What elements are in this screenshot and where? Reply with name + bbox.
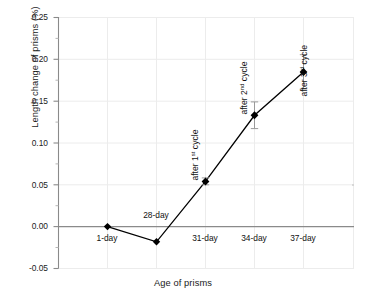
- annotation-2-suffix: cycle: [239, 62, 249, 84]
- annotation-1-prefix: after 1: [190, 156, 200, 180]
- annotation-2-prefix: after 2: [239, 90, 249, 114]
- y-tick-label-6: -0.05: [14, 264, 48, 272]
- y-axis-major-ticks: [54, 18, 59, 269]
- y-tick-label-4: 0.05: [14, 181, 48, 189]
- chart-canvas: [0, 0, 369, 300]
- x-tick-label-37-day: 37-day: [275, 234, 331, 242]
- annotation-2-sup: nd: [239, 84, 245, 91]
- x-tick-label-34-day: 34-day: [226, 234, 282, 242]
- annotation-after-3rd-cycle: after 3rd cycle: [300, 45, 309, 97]
- x-tick-label-28-day: 28-day: [128, 211, 184, 219]
- x-tick-label-31-day: 31-day: [177, 234, 233, 242]
- annotation-3-suffix: cycle: [299, 45, 309, 67]
- annotation-1-suffix: cycle: [190, 130, 200, 152]
- annotation-after-2nd-cycle: after 2nd cycle: [240, 62, 249, 115]
- y-tick-label-5: 0.00: [14, 222, 48, 230]
- image-artifact-speck: [352, 184, 354, 186]
- y-tick-label-3: 0.10: [14, 139, 48, 147]
- annotation-1-sup: st: [190, 152, 196, 157]
- y-tick-label-1: 0.20: [14, 55, 48, 63]
- y-tick-label-0: 0.25: [14, 13, 48, 21]
- annotation-3-sup: rd: [299, 67, 305, 72]
- annotation-3-prefix: after 3: [299, 72, 309, 96]
- annotation-after-1st-cycle: after 1st cycle: [191, 130, 200, 181]
- x-axis-title: Age of prisms: [58, 278, 308, 288]
- y-tick-label-2: 0.15: [14, 97, 48, 105]
- chart-figure: Length change of prisms (%) 0.25 0.20 0.…: [0, 0, 369, 300]
- x-tick-label-1-day: 1-day: [79, 234, 135, 242]
